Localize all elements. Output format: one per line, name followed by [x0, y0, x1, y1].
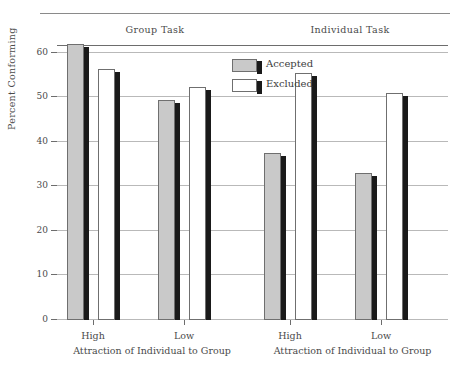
x-tick-individual-high — [290, 320, 291, 325]
bar-group-high-accepted[interactable] — [67, 44, 89, 320]
x-tick-label-group-low: Low — [174, 330, 194, 341]
legend-label-accepted: Accepted — [266, 58, 313, 69]
y-tick-label-10: 10 — [37, 269, 48, 279]
y-tick-label-20: 20 — [37, 225, 48, 235]
bar-individual-high-accepted[interactable] — [264, 153, 286, 320]
bar-individual-high-excluded[interactable] — [295, 73, 317, 320]
y-tick-label-30: 30 — [37, 180, 48, 190]
x-axis-line — [57, 45, 448, 46]
panel-title-group-task: Group Task — [95, 24, 215, 35]
y-tick-label-40: 40 — [37, 136, 48, 146]
bar-individual-low-excluded[interactable] — [386, 93, 408, 320]
bar-group-low-accepted[interactable] — [158, 100, 180, 320]
bar-individual-low-accepted[interactable] — [355, 173, 377, 320]
panel-title-individual-task: Individual Task — [285, 24, 415, 35]
x-tick-group-low — [184, 320, 185, 325]
x-tick-group-high — [93, 320, 94, 325]
y-tick-label-60: 60 — [37, 47, 48, 57]
legend-swatch-excluded-icon — [232, 79, 262, 92]
legend-item-excluded[interactable]: Excluded — [232, 78, 337, 95]
bar-group-low-excluded[interactable] — [189, 87, 211, 320]
bar-group-high-excluded[interactable] — [98, 69, 120, 320]
y-tick-label-0: 0 — [42, 314, 48, 324]
y-axis-title: Percent Conforming — [6, 27, 17, 130]
x-axis-caption-individual: Attraction of Individual to Group — [250, 345, 455, 356]
x-axis-caption-group: Attraction of Individual to Group — [52, 345, 252, 356]
legend-item-accepted[interactable]: Accepted — [232, 58, 337, 75]
gridline-60 — [57, 52, 448, 53]
legend: Accepted Excluded — [232, 58, 337, 98]
legend-swatch-accepted-icon — [232, 59, 262, 72]
x-tick-label-individual-low: Low — [371, 330, 391, 341]
y-tick-label-50: 50 — [37, 91, 48, 101]
top-divider-rule — [40, 13, 450, 14]
x-tick-label-group-high: High — [81, 330, 105, 341]
legend-label-excluded: Excluded — [266, 78, 313, 89]
x-tick-individual-low — [381, 320, 382, 325]
chart-figure: Group Task Individual Task Percent Confo… — [0, 0, 471, 366]
x-tick-label-individual-high: High — [278, 330, 302, 341]
